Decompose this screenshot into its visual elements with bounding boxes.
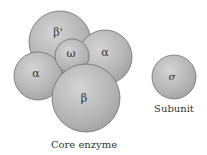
beta-label: β	[81, 92, 87, 105]
sigma-label: σ	[169, 71, 177, 82]
core-enzyme-caption: Core enzyme	[51, 139, 117, 150]
omega-label: ω	[67, 47, 76, 60]
alpha-right-label: α	[101, 46, 109, 59]
alpha-left-label: α	[32, 67, 40, 80]
sigma-subunit: σ	[152, 55, 196, 99]
beta-subunit: β	[52, 64, 120, 132]
beta-prime-label: β'	[53, 26, 62, 39]
subunit-caption: Subunit	[154, 103, 194, 114]
rna-polymerase-diagram: β' α α ω β σ	[0, 0, 207, 155]
